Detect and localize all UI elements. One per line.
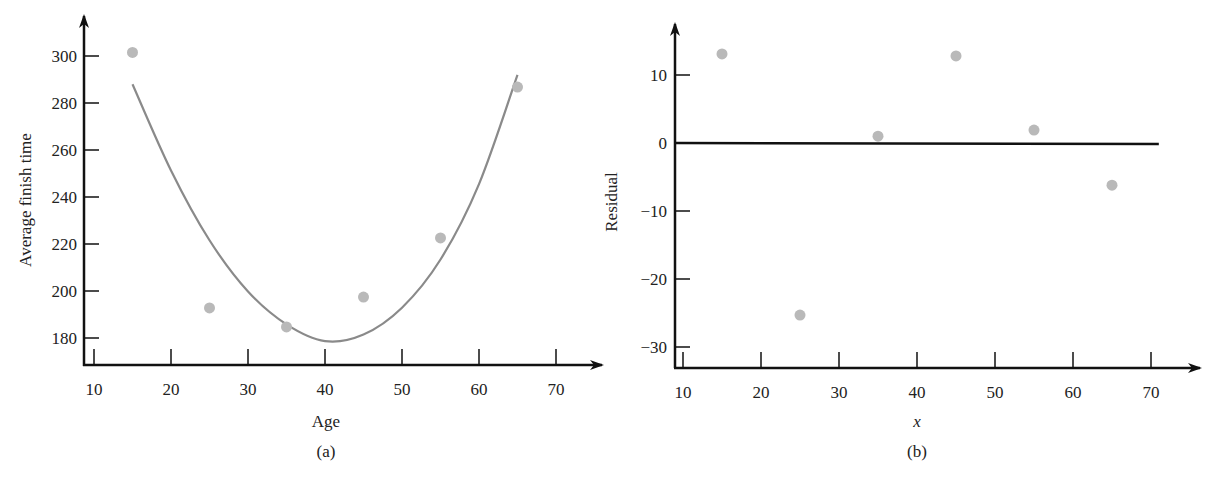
data-points [127,47,523,332]
data-points [717,48,1118,320]
data-point [1029,125,1040,136]
y-tick-label: 240 [52,188,78,207]
x-tick-label: 20 [753,383,770,402]
x-ticks: 10203040506070 [86,349,565,399]
y-axis-title: Residual [602,172,621,232]
figure: 180200220240260280300 10203040506070 Ave… [0,0,1215,487]
x-tick-label: 70 [1143,383,1160,402]
x-tick-label: 70 [548,380,565,399]
y-ticks: −30−20−10010 [640,66,690,357]
x-tick-label: 60 [471,380,488,399]
x-tick-label: 50 [394,380,411,399]
x-tick-label: 10 [675,383,692,402]
zero-reference-line [675,143,1159,144]
x-tick-label: 50 [987,383,1004,402]
x-tick-label: 30 [240,380,257,399]
y-tick-label: −30 [640,338,667,357]
x-axis-title: x [912,412,921,431]
data-point [204,302,215,313]
x-tick-label: 10 [86,380,103,399]
y-tick-label: 260 [52,141,78,160]
chart-panel-b: −30−20−10010 10203040506070 Residual x (… [602,24,1200,461]
y-tick-label: −20 [640,270,667,289]
data-point [127,47,138,58]
y-tick-label: 280 [52,94,78,113]
data-point [873,131,884,142]
y-tick-label: 220 [52,235,78,254]
data-point [512,82,523,93]
x-tick-label: 40 [317,380,334,399]
chart-panel-a: 180200220240260280300 10203040506070 Ave… [16,16,602,461]
y-ticks: 180200220240260280300 [52,47,100,348]
y-tick-label: 180 [52,329,78,348]
panel-caption: (a) [317,442,336,461]
y-tick-label: 0 [659,134,668,153]
x-tick-label: 20 [163,380,180,399]
data-point [281,321,292,332]
x-tick-label: 30 [831,383,848,402]
data-point [795,310,806,321]
panel-caption: (b) [907,442,927,461]
y-tick-label: −10 [640,202,667,221]
x-axis-title: Age [312,412,340,431]
y-axis-title: Average finish time [16,133,35,267]
fit-curve [133,75,518,342]
x-tick-label: 60 [1065,383,1082,402]
y-tick-label: 300 [52,47,78,66]
data-point [435,232,446,243]
data-point [717,48,728,59]
data-point [358,292,369,303]
y-tick-label: 10 [650,66,667,85]
x-ticks: 10203040506070 [675,352,1160,402]
y-tick-label: 200 [52,282,78,301]
data-point [1107,180,1118,191]
data-point [951,50,962,61]
x-tick-label: 40 [909,383,926,402]
